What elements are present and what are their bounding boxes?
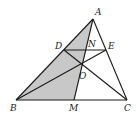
label-c: C: [124, 103, 131, 113]
geometry-diagram: A B C M D E N O: [0, 0, 138, 119]
label-a: A: [94, 7, 102, 17]
label-o: O: [79, 71, 87, 81]
label-d: D: [54, 41, 62, 51]
label-m: M: [68, 103, 79, 113]
segment-ac: [93, 19, 127, 100]
label-e: E: [107, 41, 115, 51]
label-n: N: [87, 39, 97, 49]
label-b: B: [9, 103, 17, 113]
